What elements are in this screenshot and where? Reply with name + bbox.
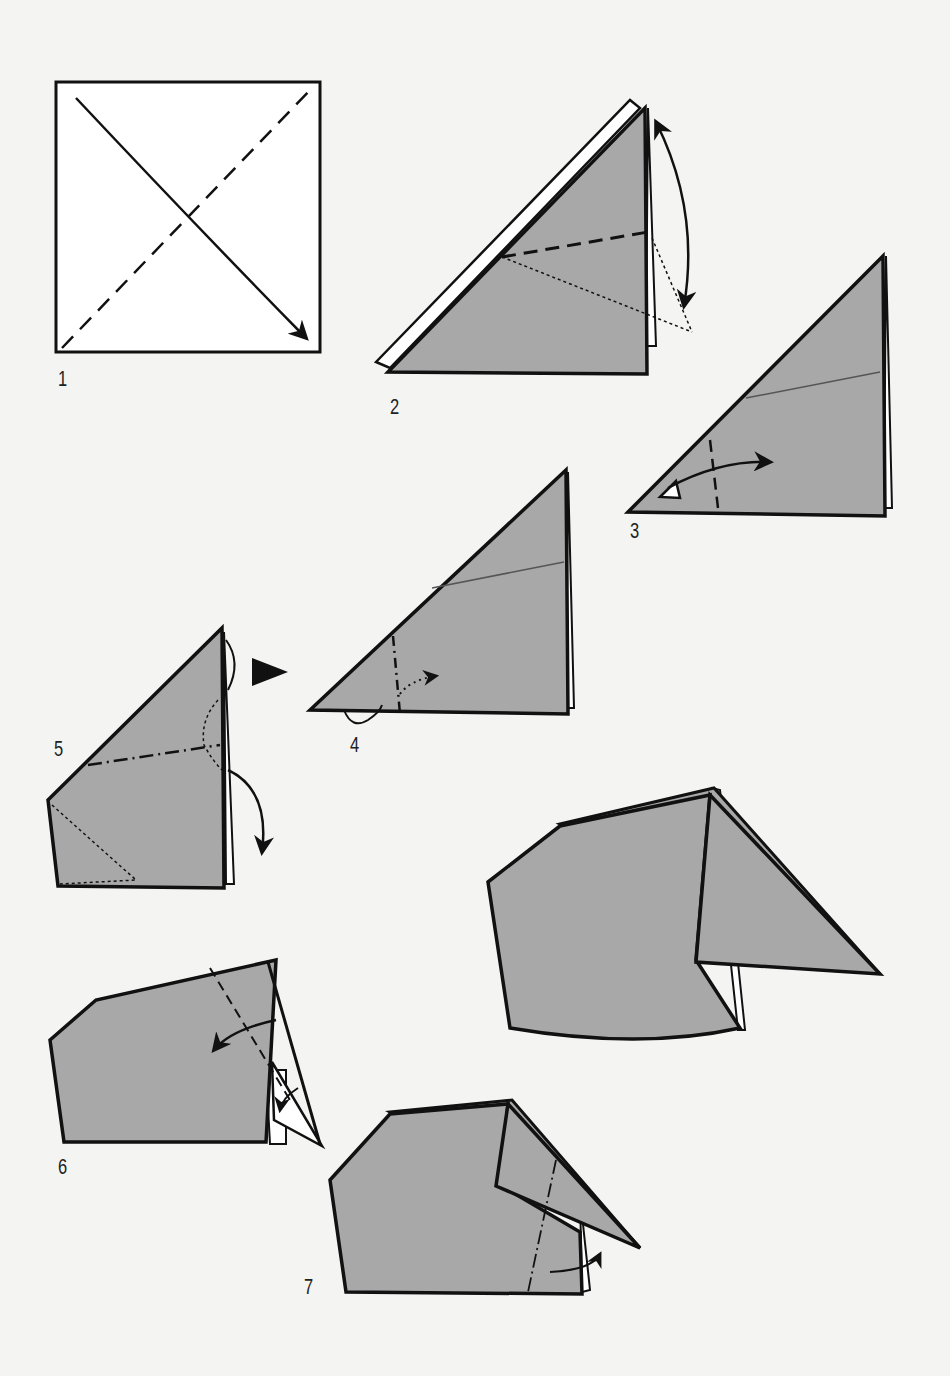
step-1-figure — [56, 82, 320, 352]
step-1-number: 1 — [58, 366, 67, 392]
step-4-number: 4 — [350, 732, 359, 758]
result-figure — [488, 788, 880, 1039]
step-2-figure — [376, 100, 692, 374]
step-3-figure — [628, 256, 892, 516]
step-6-number: 6 — [58, 1154, 67, 1180]
push-arrow-icon — [252, 658, 288, 686]
step-4-figure — [310, 470, 574, 723]
step-5-figure — [48, 628, 288, 888]
step-3-number: 3 — [630, 518, 639, 544]
step-7-number: 7 — [304, 1274, 313, 1300]
step-6-figure — [50, 960, 322, 1146]
step-5-number: 5 — [54, 736, 63, 762]
origami-diagram: 1 2 3 4 5 6 7 — [0, 0, 950, 1376]
diagram-canvas — [0, 0, 950, 1376]
step-7-figure — [330, 1100, 640, 1294]
step-2-number: 2 — [390, 394, 399, 420]
